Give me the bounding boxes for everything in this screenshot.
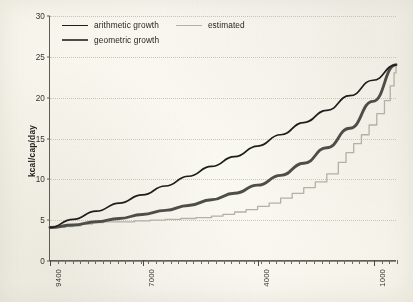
x-minor-tick: [389, 260, 390, 264]
legend-entry-geometric-growth: geometric growth: [62, 35, 159, 45]
x-minor-tick: [201, 260, 202, 264]
series-line-arithmetic-growth: [50, 65, 396, 228]
legend-entry-arithmetic-growth: arithmetic growth: [62, 20, 159, 30]
x-minor-tick: [344, 260, 345, 264]
legend-label-estimated: estimated: [208, 20, 245, 30]
legend-label-geometric-growth: geometric growth: [94, 35, 159, 45]
y-tick-label-5: 5: [40, 216, 50, 225]
legend-row-top: arithmetic growth estimated: [62, 20, 262, 35]
x-minor-tick: [73, 260, 74, 264]
x-major-tick-7000: [143, 260, 144, 266]
x-minor-tick: [80, 260, 81, 264]
x-minor-tick: [65, 260, 66, 264]
x-minor-tick: [118, 260, 119, 264]
plot-canvas: 051015202530 9400700040001000: [50, 16, 396, 260]
x-minor-tick: [224, 260, 225, 264]
x-minor-tick: [103, 260, 104, 264]
x-minor-tick: [276, 260, 277, 264]
x-minor-tick: [254, 260, 255, 264]
x-minor-tick: [193, 260, 194, 264]
x-minor-tick: [148, 260, 149, 264]
x-minor-tick: [231, 260, 232, 264]
x-major-tick-9400: [50, 260, 51, 266]
x-minor-tick: [95, 260, 96, 264]
x-minor-tick: [367, 260, 368, 264]
y-tick-label-30: 30: [36, 12, 50, 21]
legend-label-arithmetic-growth: arithmetic growth: [94, 20, 159, 30]
x-major-tick-4000: [258, 260, 259, 266]
x-minor-tick: [352, 260, 353, 264]
x-minor-tick: [58, 260, 59, 264]
legend-entry-estimated: estimated: [176, 20, 245, 30]
x-minor-tick: [269, 260, 270, 264]
x-major-tick-1000: [374, 260, 375, 266]
y-tick-label-25: 25: [36, 52, 50, 61]
x-minor-tick: [208, 260, 209, 264]
chart-figure: kcal/cap/day 051015202530 94007000400010…: [0, 0, 413, 302]
x-minor-tick: [382, 260, 383, 264]
y-axis-title: kcal/cap/day: [27, 125, 37, 177]
x-minor-tick: [239, 260, 240, 264]
y-tick-label-10: 10: [36, 175, 50, 184]
x-minor-tick: [163, 260, 164, 264]
x-minor-tick: [306, 260, 307, 264]
x-tick-label-1000: 1000: [378, 269, 387, 287]
x-minor-tick: [156, 260, 157, 264]
x-minor-tick: [216, 260, 217, 264]
x-minor-tick: [314, 260, 315, 264]
line-swatch-estimated-icon: [176, 25, 202, 26]
x-minor-tick: [246, 260, 247, 264]
x-minor-tick: [291, 260, 292, 264]
x-minor-tick: [125, 260, 126, 264]
line-swatch-geometric-icon: [62, 39, 88, 41]
x-minor-tick: [337, 260, 338, 264]
x-minor-tick: [322, 260, 323, 264]
line-swatch-arithmetic-icon: [62, 25, 88, 26]
x-minor-tick: [261, 260, 262, 264]
x-tick-label-7000: 7000: [147, 269, 156, 287]
x-minor-tick: [329, 260, 330, 264]
x-minor-tick: [133, 260, 134, 264]
legend-row-bottom: geometric growth: [62, 35, 176, 50]
x-minor-tick: [397, 260, 398, 264]
y-tick-label-20: 20: [36, 93, 50, 102]
x-minor-tick: [186, 260, 187, 264]
plot-frame: 051015202530 9400700040001000: [49, 16, 396, 261]
x-minor-tick: [178, 260, 179, 264]
series-line-estimated: [50, 65, 396, 228]
x-minor-tick: [141, 260, 142, 264]
y-tick-label-15: 15: [36, 134, 50, 143]
x-minor-tick: [299, 260, 300, 264]
series-line-geometric-growth: [50, 65, 396, 228]
x-minor-tick: [171, 260, 172, 264]
x-tick-label-9400: 9400: [54, 269, 63, 287]
x-minor-tick: [88, 260, 89, 264]
series-lines: [50, 16, 396, 260]
chart-legend: arithmetic growth estimated geometric gr…: [62, 20, 312, 50]
y-tick-label-0: 0: [40, 257, 50, 266]
x-minor-tick: [284, 260, 285, 264]
x-minor-tick: [359, 260, 360, 264]
x-tick-label-4000: 4000: [262, 269, 271, 287]
x-minor-tick: [110, 260, 111, 264]
